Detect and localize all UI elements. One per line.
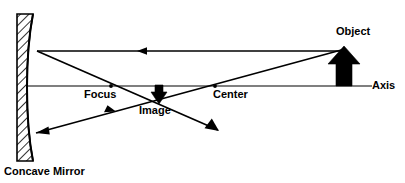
- ray-arrowhead-left-lower: [36, 127, 50, 135]
- center-label: Center: [213, 89, 248, 100]
- ray-direction-arrow-midway: [104, 105, 116, 112]
- object-label: Object: [336, 26, 370, 37]
- concave-mirror: [17, 14, 33, 161]
- concave-mirror-ray-diagram: Object Axis Focus Center Image Concave M…: [0, 0, 405, 183]
- axis-label: Axis: [372, 80, 395, 91]
- image-label: Image: [139, 105, 171, 116]
- parallel-incident-ray: [37, 47, 345, 55]
- focus-label: Focus: [84, 89, 116, 100]
- ray-arrowhead-left: [137, 47, 147, 55]
- concave-mirror-label: Concave Mirror: [4, 166, 85, 177]
- incident-through-center-ray: [36, 49, 345, 135]
